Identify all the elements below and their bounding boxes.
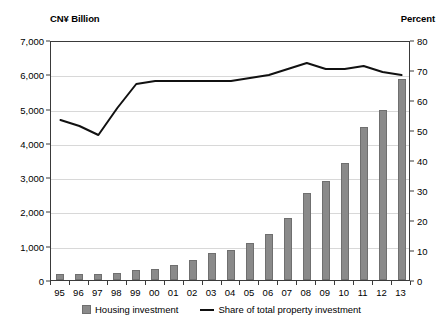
- bar-swatch-icon: [82, 305, 91, 314]
- y-axis-left-label: 0: [0, 276, 44, 287]
- y-axis-right-tick: [410, 101, 414, 102]
- x-axis-label: 01: [168, 287, 179, 298]
- y-axis-left-label: 3,000: [0, 173, 44, 184]
- x-axis-tick: [202, 281, 203, 285]
- x-axis-tick: [391, 281, 392, 285]
- x-axis-tick: [221, 281, 222, 285]
- line-swatch-icon: [200, 309, 214, 311]
- x-axis-tick: [315, 281, 316, 285]
- x-axis-tick: [258, 281, 259, 285]
- x-axis-label: 09: [319, 287, 330, 298]
- x-axis-label: 12: [376, 287, 387, 298]
- x-axis-label: 00: [149, 287, 160, 298]
- y-axis-left-label: 1,000: [0, 241, 44, 252]
- y-axis-right-tick: [410, 71, 414, 72]
- x-axis-tick: [69, 281, 70, 285]
- legend-item-housing-investment: Housing investment: [82, 304, 178, 315]
- y-axis-right-label: 70: [417, 66, 443, 77]
- y-axis-right-tick: [410, 161, 414, 162]
- x-axis-label: 95: [54, 287, 65, 298]
- x-axis-tick: [410, 281, 411, 285]
- y-axis-left-tick: [46, 41, 50, 42]
- x-axis-label: 08: [300, 287, 311, 298]
- x-axis-tick: [277, 281, 278, 285]
- chart-legend: Housing investment Share of total proper…: [0, 304, 443, 315]
- x-axis-label: 04: [225, 287, 236, 298]
- x-axis-tick: [183, 281, 184, 285]
- x-axis-label: 10: [338, 287, 349, 298]
- x-axis-tick: [50, 281, 51, 285]
- line-series: [51, 42, 411, 282]
- x-axis-label: 13: [395, 287, 406, 298]
- x-axis-tick: [334, 281, 335, 285]
- x-axis-tick: [353, 281, 354, 285]
- chart-container: CN¥ Billion Percent 01,0002,0003,0004,00…: [0, 0, 443, 328]
- y-axis-left-label: 2,000: [0, 207, 44, 218]
- y-axis-left-label: 6,000: [0, 70, 44, 81]
- right-axis-title: Percent: [401, 13, 435, 24]
- plot-area: [50, 41, 410, 281]
- y-axis-left-tick: [46, 212, 50, 213]
- x-axis-label: 96: [73, 287, 84, 298]
- x-axis-tick: [372, 281, 373, 285]
- y-axis-left-label: 7,000: [0, 36, 44, 47]
- y-axis-right-tick: [410, 251, 414, 252]
- legend-label-housing-investment: Housing investment: [95, 304, 178, 315]
- y-axis-right-label: 40: [417, 156, 443, 167]
- x-axis-tick: [164, 281, 165, 285]
- y-axis-left-tick: [46, 143, 50, 144]
- legend-item-share-of-total-property-investment: Share of total property investment: [200, 304, 361, 315]
- y-axis-right-tick: [410, 221, 414, 222]
- y-axis-right-label: 0: [417, 276, 443, 287]
- y-axis-right-label: 10: [417, 246, 443, 257]
- y-axis-right-tick: [410, 131, 414, 132]
- x-axis-tick: [126, 281, 127, 285]
- legend-label-share: Share of total property investment: [218, 304, 361, 315]
- x-axis-label: 99: [130, 287, 141, 298]
- y-axis-left-tick: [46, 246, 50, 247]
- y-axis-right-tick: [410, 191, 414, 192]
- y-axis-right-label: 30: [417, 186, 443, 197]
- x-axis-label: 06: [263, 287, 274, 298]
- y-axis-left-tick: [46, 178, 50, 179]
- y-axis-right-label: 60: [417, 96, 443, 107]
- x-axis-label: 05: [244, 287, 255, 298]
- y-axis-left-tick: [46, 75, 50, 76]
- y-axis-right-label: 20: [417, 216, 443, 227]
- x-axis-label: 02: [187, 287, 198, 298]
- x-axis-tick: [88, 281, 89, 285]
- x-axis-tick: [296, 281, 297, 285]
- y-axis-left-label: 4,000: [0, 138, 44, 149]
- x-axis-label: 97: [92, 287, 103, 298]
- x-axis-label: 07: [282, 287, 293, 298]
- x-axis-label: 11: [358, 287, 368, 298]
- y-axis-left-tick: [46, 109, 50, 110]
- x-axis-label: 03: [206, 287, 217, 298]
- y-axis-left-label: 5,000: [0, 104, 44, 115]
- y-axis-right-tick: [410, 41, 414, 42]
- y-axis-right-label: 50: [417, 126, 443, 137]
- y-axis-right-label: 80: [417, 36, 443, 47]
- x-axis-tick: [239, 281, 240, 285]
- x-axis-label: 98: [111, 287, 122, 298]
- x-axis-tick: [145, 281, 146, 285]
- left-axis-title: CN¥ Billion: [50, 13, 100, 24]
- x-axis-tick: [107, 281, 108, 285]
